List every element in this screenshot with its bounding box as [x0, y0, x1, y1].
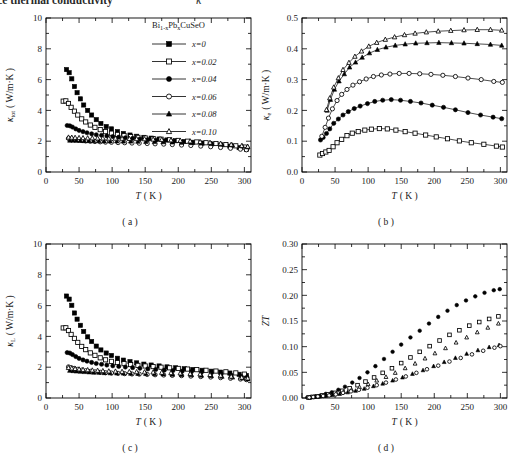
data-point-filled-circle [358, 104, 362, 108]
data-point-filled-circle [373, 99, 377, 103]
legend-label: x=0.04 [191, 74, 217, 84]
y-tick-label: 0 [38, 167, 43, 177]
data-point-open-triangle [328, 96, 332, 100]
y-axis-label: κe( W/m·K ) [261, 70, 272, 120]
data-point-filled-circle [483, 291, 487, 295]
data-point-open-circle [448, 360, 452, 364]
data-point-open-circle [316, 395, 320, 399]
data-point-open-circle [394, 378, 398, 382]
x-tick-label: 250 [461, 402, 475, 412]
data-point-open-triangle [336, 76, 340, 80]
data-point-filled-circle [473, 295, 477, 299]
legend-label: x=0.10 [191, 127, 217, 137]
data-point-open-triangle [393, 371, 397, 375]
data-point-open-triangle [218, 141, 222, 145]
legend-label: x=0.06 [191, 92, 217, 102]
legend-label: x=0 [191, 39, 207, 49]
data-point-open-triangle [383, 37, 387, 41]
data-point-open-square [403, 130, 407, 134]
data-point-filled-circle [453, 108, 457, 112]
data-point-open-square [482, 142, 486, 146]
data-point-open-triangle [402, 32, 406, 36]
data-point-open-square [350, 131, 354, 135]
data-point-open-circle [384, 381, 388, 385]
data-point-filled-square [72, 84, 76, 88]
x-tick-label: 150 [138, 402, 152, 412]
data-point-open-square [224, 370, 228, 374]
data-point-open-square [390, 366, 394, 370]
data-point-filled-circle [328, 127, 332, 131]
y-tick-label: 4 [38, 332, 43, 342]
data-point-open-triangle [107, 369, 111, 373]
data-point-filled-circle [436, 315, 440, 319]
data-point-filled-circle [131, 366, 135, 370]
data-point-filled-circle [117, 364, 121, 368]
data-point-open-square [399, 361, 403, 365]
data-point-open-square [448, 333, 452, 337]
data-point-filled-circle [441, 105, 445, 109]
data-point-open-triangle [81, 135, 85, 139]
data-point-open-square [176, 366, 180, 370]
data-point-open-circle [320, 134, 324, 138]
data-point-open-circle [307, 396, 311, 400]
data-point-filled-circle [85, 131, 89, 135]
data-point-open-triangle [433, 351, 437, 355]
series-x004 [305, 287, 501, 399]
x-tick-label: 200 [428, 176, 442, 186]
y-axis-label: κtot( W/m·K ) [5, 68, 16, 122]
data-point-open-square [234, 371, 238, 375]
data-point-open-triangle [384, 375, 388, 379]
data-point-open-square [413, 131, 417, 135]
data-point-filled-square [104, 351, 108, 355]
x-tick-label: 100 [105, 402, 119, 412]
data-point-open-square [84, 348, 88, 352]
data-point-filled-square [75, 317, 79, 321]
data-point-open-square [185, 367, 189, 371]
data-point-filled-square [67, 297, 71, 301]
data-point-open-triangle [113, 369, 117, 373]
panel-c-lattice-thermal-conductivity: 0501001502002503000246810T( K )κL( W/m·K… [2, 234, 258, 457]
data-point-filled-circle [77, 128, 81, 132]
data-point-filled-square [90, 113, 94, 117]
y-tick-label: 0.0 [287, 167, 299, 177]
x-tick-label: 50 [331, 402, 341, 412]
data-point-open-circle [481, 349, 485, 353]
y-tick-label: 4 [38, 106, 43, 116]
data-point-filled-triangle [432, 364, 436, 368]
data-point-open-square [372, 376, 376, 380]
data-point-filled-circle [138, 366, 142, 370]
figure-2x2-grid: 0501001502002503000246810T( K )κtot( W/m… [0, 8, 516, 457]
data-point-filled-square [86, 108, 90, 112]
x-tick-label: 250 [205, 402, 219, 412]
panel-a-caption: ( a ) [2, 217, 258, 227]
data-point-open-circle [327, 394, 331, 398]
data-point-open-circle [493, 346, 497, 350]
data-point-open-circle [418, 72, 422, 76]
data-point-open-circle [470, 353, 474, 357]
data-point-filled-circle [498, 287, 502, 291]
data-point-filled-circle [382, 357, 386, 361]
data-point-open-square [438, 339, 442, 343]
x-tick-label: 150 [394, 402, 408, 412]
legend-item-x006: x=0.06 [152, 92, 217, 102]
data-point-open-square [76, 340, 80, 344]
data-point-open-square [98, 356, 102, 360]
data-point-filled-square [109, 353, 113, 357]
running-header-text: ice thermal conductivity [0, 0, 113, 6]
y-tick-label: 2 [38, 362, 43, 372]
legend-item-x008: x=0.08 [152, 109, 217, 119]
data-point-open-triangle [403, 366, 407, 370]
legend-label: x=0.08 [191, 109, 217, 119]
data-point-open-square [469, 141, 473, 145]
data-point-open-square [458, 328, 462, 332]
data-point-filled-square [90, 339, 94, 343]
data-point-open-square [363, 128, 367, 132]
data-point-filled-circle [409, 336, 413, 340]
data-point-open-square [88, 351, 92, 355]
data-point-filled-triangle [476, 348, 480, 352]
data-point-open-circle [436, 364, 440, 368]
x-tick-label: 0 [300, 176, 305, 186]
x-tick-label: 200 [428, 402, 442, 412]
data-point-filled-square [72, 311, 76, 315]
data-point-open-square [88, 123, 92, 127]
